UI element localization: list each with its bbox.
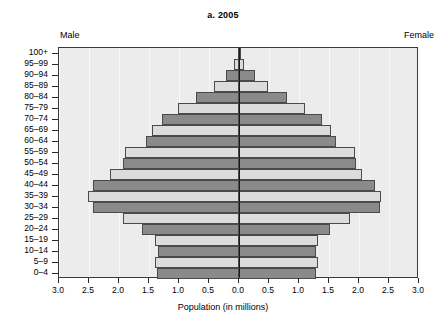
x-axis-tick-label: 0.0 [221,285,255,295]
bar-female [239,136,336,147]
y-axis-tick-label: 60–64 [2,136,48,145]
x-axis-tick-label: 2.0 [101,285,135,295]
plot-area [58,47,418,278]
y-axis-tick [52,130,58,131]
x-axis-tick [418,278,419,283]
y-axis-tick [52,141,58,142]
pyramid-row [59,202,417,213]
pyramid-row [59,92,417,103]
pyramid-row [59,180,417,191]
pyramid-row [59,191,417,202]
y-axis-tick [52,86,58,87]
pyramid-row [59,114,417,125]
y-axis-tick-label: 80–84 [2,92,48,101]
x-axis-tick [118,278,119,283]
male-side-label: Male [60,30,80,40]
y-axis-tick [52,229,58,230]
bar-female [239,70,255,81]
bar-male [162,114,239,125]
x-axis-tick-label: 1.0 [161,285,195,295]
bar-male [196,92,239,103]
center-axis-line [239,48,240,277]
bar-female [239,103,305,114]
chart-title: a. 2005 [0,10,446,20]
x-axis-tick-label: 0.5 [251,285,285,295]
bar-female [239,191,381,202]
pyramid-row [59,235,417,246]
bar-male [93,180,239,191]
x-axis-tick-label: 1.5 [311,285,345,295]
bar-male [158,246,239,257]
bar-female [239,92,287,103]
x-axis-tick-label: 3.0 [401,285,435,295]
pyramid-row [59,169,417,180]
bar-male [123,158,239,169]
y-axis-tick [52,251,58,252]
x-axis-tick-label: 2.0 [341,285,375,295]
bar-male [214,81,239,92]
bar-female [239,158,356,169]
y-axis-tick [52,163,58,164]
pyramid-row [59,59,417,70]
x-axis-tick-label: 1.5 [131,285,165,295]
bar-male [157,268,239,279]
female-side-label: Female [404,30,434,40]
y-axis-tick-label: 40–44 [2,180,48,189]
x-axis-tick [88,278,89,283]
y-axis-tick-label: 95–99 [2,59,48,68]
bar-male [155,235,239,246]
bar-female [239,125,331,136]
bar-female [239,147,355,158]
bar-male [125,147,239,158]
y-axis-tick-label: 10–14 [2,246,48,255]
y-axis-tick-label: 0–4 [2,268,48,277]
pyramid-row [59,70,417,81]
x-axis-tick-label: 1.0 [281,285,315,295]
y-axis-tick [52,196,58,197]
y-axis-tick [52,53,58,54]
y-axis-tick-label: 100+ [2,48,48,57]
y-axis-tick-label: 50–54 [2,158,48,167]
bar-female [239,202,380,213]
y-axis-tick [52,97,58,98]
y-axis-tick [52,108,58,109]
x-axis-tick-label: 0.5 [191,285,225,295]
y-axis-tick [52,152,58,153]
bar-male [155,257,239,268]
bar-male [93,202,239,213]
y-axis-tick-label: 20–24 [2,224,48,233]
y-axis-tick [52,240,58,241]
bar-female [239,180,375,191]
y-axis-tick-label: 75–79 [2,103,48,112]
pyramid-row [59,147,417,158]
bar-male [123,213,239,224]
bar-female [239,224,330,235]
bar-female [239,213,350,224]
bar-female [239,246,316,257]
x-axis-title: Population (in millions) [0,302,446,312]
y-axis-tick-label: 70–74 [2,114,48,123]
y-axis-tick-label: 30–34 [2,202,48,211]
x-axis-tick [58,278,59,283]
y-axis-tick [52,174,58,175]
y-axis-tick [52,75,58,76]
y-axis-tick-label: 90–94 [2,70,48,79]
y-axis-tick [52,185,58,186]
bar-male [142,224,239,235]
bar-male [88,191,239,202]
x-axis-tick [178,278,179,283]
y-axis-tick-label: 45–49 [2,169,48,178]
y-axis-tick [52,273,58,274]
y-axis-tick-label: 85–89 [2,81,48,90]
bar-male [152,125,239,136]
y-axis-tick [52,119,58,120]
x-axis-tick [358,278,359,283]
bar-female [239,268,316,279]
pyramid-row [59,224,417,235]
bar-male [110,169,239,180]
y-axis-tick-label: 15–19 [2,235,48,244]
x-axis-tick [388,278,389,283]
bar-female [239,235,318,246]
x-axis-tick [328,278,329,283]
y-axis-tick-label: 55–59 [2,147,48,156]
